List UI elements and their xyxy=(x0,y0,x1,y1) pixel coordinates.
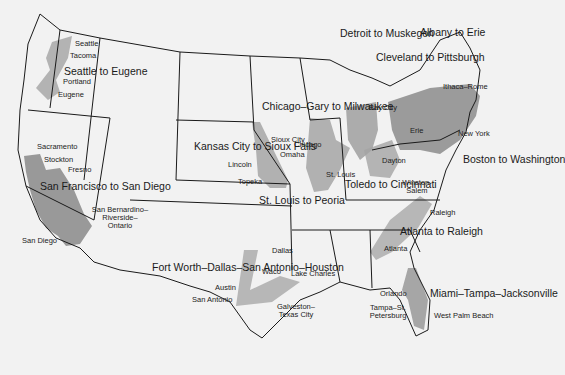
city-label: Seattle xyxy=(75,40,98,48)
urban-midwest xyxy=(306,118,350,192)
city-label: Chicago xyxy=(294,141,322,149)
city-label: Orlando xyxy=(380,290,407,298)
city-label: New York xyxy=(458,130,490,138)
region-label: Albany to Erie xyxy=(420,27,476,38)
city-label: St. Louis xyxy=(326,171,355,179)
urban-florida xyxy=(402,268,428,330)
city-label: Austin xyxy=(215,284,236,292)
region-label: Cleveland to Pittsburgh xyxy=(376,52,456,63)
city-label: Portland xyxy=(63,78,91,86)
city-label: Sacramento xyxy=(37,143,77,151)
region-label: Atlanta to Raleigh xyxy=(400,226,483,237)
region-label: San Francisco to San Diego xyxy=(40,181,170,192)
city-label: Dallas xyxy=(272,247,293,255)
city-label: Raleigh xyxy=(430,209,455,217)
region-label: Fort Worth–Dallas–San Antonio–Houston xyxy=(152,262,262,273)
region-label: Chicago–Gary to Milwaukee xyxy=(262,101,372,112)
city-label: San Bernardino–Riverside–Ontario xyxy=(90,206,150,230)
region-label: Detroit to Muskegon xyxy=(340,28,404,39)
city-label: Galveston–Texas City xyxy=(274,303,318,319)
region-label: Miami–Tampa–Jacksonville xyxy=(430,288,510,299)
region-label: Kansas City to Sioux Falls xyxy=(194,141,274,152)
city-label: Ithaca–Rome xyxy=(443,83,488,91)
region-label: Boston to Washington xyxy=(463,154,519,165)
city-label: Eugene xyxy=(58,91,84,99)
city-label: Winston-Salem xyxy=(395,179,439,195)
city-label: Waco xyxy=(262,268,281,276)
city-label: Lincoln xyxy=(228,161,252,169)
region-label: Seattle to Eugene xyxy=(64,66,147,77)
city-label: West Palm Beach xyxy=(434,312,493,320)
city-label: Erie xyxy=(410,127,423,135)
region-label: St. Louis to Peoria xyxy=(259,195,345,206)
city-label: Bay City xyxy=(369,104,397,112)
city-label: Atlanta xyxy=(384,245,407,253)
city-label: Stockton xyxy=(44,156,73,164)
city-label: Omaha xyxy=(280,151,305,159)
city-label: Dayton xyxy=(382,157,406,165)
city-label: Topeka xyxy=(238,178,262,186)
city-label: San Antonio xyxy=(192,296,232,304)
city-label: Fresno xyxy=(68,166,91,174)
city-label: Tacoma xyxy=(70,52,96,60)
city-label: San Diego xyxy=(22,237,57,245)
city-label: Tampa–St. Petersburg xyxy=(360,304,416,320)
urban-texas xyxy=(236,250,300,306)
city-label: Lake Charles xyxy=(291,270,335,278)
